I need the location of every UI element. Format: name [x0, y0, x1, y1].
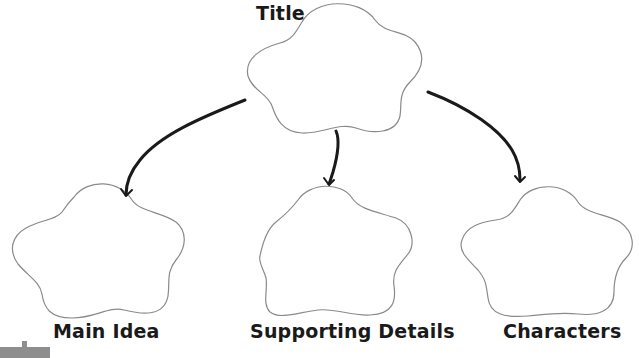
title-label: Title: [256, 2, 305, 24]
arrow-to-supporting-details: [329, 131, 338, 184]
supporting-details-label: Supporting Details: [250, 320, 455, 342]
graphic-organizer-diagram: [0, 0, 639, 358]
main-idea-cloud[interactable]: [12, 184, 184, 318]
corner-tab: [0, 347, 50, 358]
arrow-to-characters: [428, 92, 520, 180]
arrow-to-main-idea: [126, 100, 245, 195]
characters-label: Characters: [503, 320, 621, 342]
supporting-details-cloud[interactable]: [260, 186, 412, 315]
characters-cloud[interactable]: [461, 187, 632, 317]
main-idea-label: Main Idea: [53, 320, 160, 342]
